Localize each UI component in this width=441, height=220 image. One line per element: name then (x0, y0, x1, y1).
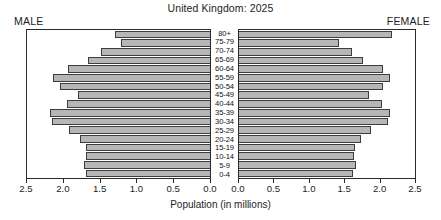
female-panel-label: FEMALE (387, 15, 430, 27)
bar-row (27, 117, 210, 126)
bar-row (239, 152, 415, 161)
bar-female-80plus (239, 31, 392, 39)
axis-tick-label: 0.0 (203, 183, 216, 194)
axis-tick-label: 2.5 (408, 183, 421, 194)
axis-tick-label: 1.5 (93, 183, 106, 194)
age-group-label: 5-9 (211, 161, 238, 170)
bar-male-5-9 (84, 161, 210, 169)
bar-male-50-54 (60, 83, 210, 91)
axis-tick-label: 2.5 (19, 183, 32, 194)
bar-row (239, 65, 415, 74)
bar-row (239, 169, 415, 178)
bar-row (239, 39, 415, 48)
x-axis-title: Population (in millions) (0, 199, 441, 210)
axis-tick-label: 1.0 (302, 183, 315, 194)
age-group-label: 35-39 (211, 108, 238, 117)
bar-female-30-34 (239, 118, 388, 126)
bar-male-0-4 (86, 170, 210, 178)
male-plot-panel (26, 29, 211, 179)
bar-row (27, 143, 210, 152)
bar-row (239, 161, 415, 170)
bar-female-5-9 (239, 161, 356, 169)
bar-female-25-29 (239, 126, 371, 134)
bar-row (27, 152, 210, 161)
bar-row (27, 134, 210, 143)
bar-row (27, 74, 210, 83)
bar-female-75-79 (239, 39, 339, 47)
bar-row (27, 47, 210, 56)
bar-row (27, 108, 210, 117)
bar-male-55-59 (53, 74, 210, 82)
bar-row (27, 161, 210, 170)
bar-female-35-39 (239, 109, 390, 117)
axis-tick-label: 0.5 (167, 183, 180, 194)
bar-row (27, 30, 210, 39)
bar-female-10-14 (239, 152, 354, 160)
bar-row (27, 100, 210, 109)
bar-female-65-69 (239, 57, 363, 65)
bar-row (239, 91, 415, 100)
age-group-label: 25-29 (211, 126, 238, 135)
bar-male-30-34 (52, 118, 210, 126)
bar-male-15-19 (86, 144, 210, 152)
bar-male-80plus (115, 31, 210, 39)
age-group-label: 0-4 (211, 170, 238, 179)
female-x-axis: 0.00.51.01.52.02.5 (238, 179, 416, 199)
bar-female-60-64 (239, 65, 383, 73)
bar-row (239, 134, 415, 143)
female-bar-rows (239, 30, 415, 178)
bar-female-70-74 (239, 48, 352, 56)
age-group-labels: 80+75-7970-7465-6960-6455-5950-5445-4940… (211, 29, 238, 179)
axis-tick-label: 1.0 (130, 183, 143, 194)
female-plot-panel (238, 29, 416, 179)
bar-male-45-49 (78, 91, 210, 99)
axis-tick-label: 0.0 (231, 183, 244, 194)
bar-male-35-39 (50, 109, 210, 117)
bar-row (27, 65, 210, 74)
bar-row (27, 39, 210, 48)
age-group-label: 65-69 (211, 55, 238, 64)
bar-row (239, 47, 415, 56)
axis-tick-label: 2.0 (56, 183, 69, 194)
bar-male-65-69 (88, 57, 210, 65)
axis-tick-label: 1.5 (338, 183, 351, 194)
age-group-label: 55-59 (211, 73, 238, 82)
bar-female-55-59 (239, 74, 390, 82)
bar-row (239, 117, 415, 126)
bar-row (239, 126, 415, 135)
bar-male-40-44 (67, 100, 210, 108)
bar-row (27, 56, 210, 65)
bar-row (239, 74, 415, 83)
bar-male-20-24 (80, 135, 210, 143)
bar-row (239, 56, 415, 65)
bar-male-75-79 (121, 39, 210, 47)
bar-female-15-19 (239, 144, 355, 152)
chart-title: United Kingdom: 2025 (0, 2, 441, 14)
male-bar-rows (27, 30, 210, 178)
age-group-label: 30-34 (211, 117, 238, 126)
bar-row (239, 100, 415, 109)
population-pyramid-chart: United Kingdom: 2025 MALE FEMALE 80+75-7… (0, 0, 441, 220)
bar-female-0-4 (239, 170, 353, 178)
bar-male-70-74 (101, 48, 210, 56)
bar-female-50-54 (239, 83, 383, 91)
bar-male-60-64 (68, 65, 210, 73)
bar-row (239, 143, 415, 152)
bar-row (27, 91, 210, 100)
bar-row (27, 82, 210, 91)
bar-female-20-24 (239, 135, 361, 143)
bar-male-25-29 (69, 126, 210, 134)
male-panel-label: MALE (14, 15, 43, 27)
bar-row (27, 169, 210, 178)
bar-female-45-49 (239, 91, 369, 99)
axis-tick-label: 2.0 (373, 183, 386, 194)
axis-tick-label: 0.5 (267, 183, 280, 194)
bar-row (239, 82, 415, 91)
bar-male-10-14 (86, 152, 210, 160)
bar-female-40-44 (239, 100, 382, 108)
bar-row (27, 126, 210, 135)
age-group-label: 60-64 (211, 64, 238, 73)
bar-row (239, 30, 415, 39)
bar-row (239, 108, 415, 117)
male-x-axis: 2.52.01.51.00.50.0 (26, 179, 211, 199)
